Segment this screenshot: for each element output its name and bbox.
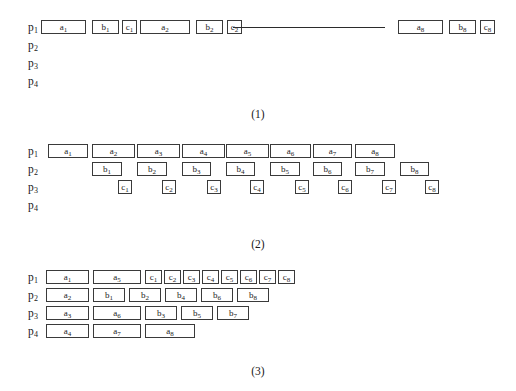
process-rows: p1p2p3p4a1b1c1a2b2c2a8b8c8	[0, 18, 516, 90]
process-rows: p1p2p3p4a1a2a3a4a5a6a7a8b1b2b3b4b5b6b7b8…	[0, 142, 516, 214]
task-box-a8: a8	[398, 20, 443, 34]
row-label-p3: p3	[28, 178, 38, 196]
task-box-a6: a6	[93, 306, 141, 320]
figure-caption: (2)	[0, 238, 516, 250]
task-box-a1: a1	[46, 270, 89, 284]
figure-3: p1p2p3p4a1a5c1c2c3c4c5c6c7c8a2b1b2b4b6b8…	[0, 268, 516, 340]
row-label-p2: p2	[28, 160, 38, 178]
task-box-c3: c3	[183, 270, 200, 284]
process-row: p4	[0, 196, 516, 214]
row-label-p2: p2	[28, 286, 38, 304]
task-box-a3: a3	[46, 306, 89, 320]
task-box-b1: b1	[92, 162, 122, 176]
task-box-b8: b8	[400, 162, 429, 176]
row-label-p1: p1	[28, 142, 38, 160]
row-label-p3: p3	[28, 54, 38, 72]
task-box-c5: c5	[295, 180, 309, 194]
row-label-p4: p4	[28, 72, 38, 90]
process-row: p4	[0, 72, 516, 90]
task-box-b7: b7	[355, 162, 385, 176]
task-box-b5: b5	[181, 306, 213, 320]
task-box-c8: c8	[278, 270, 295, 284]
task-box-a5: a5	[93, 270, 141, 284]
task-box-c5: c5	[221, 270, 238, 284]
row-label-p4: p4	[28, 322, 38, 340]
task-box-a7: a7	[93, 324, 141, 338]
task-box-c6: c6	[240, 270, 257, 284]
row-label-p1: p1	[28, 18, 38, 36]
process-row: p3	[0, 54, 516, 72]
task-box-a4: a4	[182, 144, 225, 158]
figure-caption: (1)	[0, 108, 516, 120]
task-box-c1: c1	[118, 180, 132, 194]
task-box-c1: c1	[145, 270, 162, 284]
row-label-p3: p3	[28, 304, 38, 322]
task-box-b2: b2	[196, 20, 223, 34]
task-box-c7: c7	[259, 270, 276, 284]
task-box-a3: a3	[137, 144, 180, 158]
task-box-c2: c2	[162, 180, 176, 194]
task-box-a2: a2	[46, 288, 89, 302]
figure-caption: (3)	[0, 365, 516, 377]
task-box-c8: c8	[480, 20, 495, 34]
task-box-a6: a6	[270, 144, 311, 158]
task-box-b6: b6	[313, 162, 342, 176]
task-box-c2: c2	[164, 270, 181, 284]
continuation-line	[233, 27, 385, 28]
task-box-a2: a2	[92, 144, 135, 158]
row-label-p2: p2	[28, 36, 38, 54]
task-box-a1: a1	[48, 144, 88, 158]
task-box-b3: b3	[145, 306, 177, 320]
task-box-c7: c7	[382, 180, 396, 194]
task-box-b1: b1	[93, 288, 125, 302]
task-box-b2: b2	[137, 162, 167, 176]
task-box-b5: b5	[270, 162, 300, 176]
figure-1: p1p2p3p4a1b1c1a2b2c2a8b8c8	[0, 18, 516, 90]
task-box-a2: a2	[140, 20, 190, 34]
task-box-b3: b3	[182, 162, 211, 176]
task-box-c6: c6	[338, 180, 352, 194]
task-box-b8: b8	[449, 20, 476, 34]
task-box-b4: b4	[165, 288, 197, 302]
task-box-a7: a7	[313, 144, 352, 158]
task-box-c4: c4	[250, 180, 264, 194]
process-row: p2	[0, 36, 516, 54]
task-box-c1: c1	[122, 20, 137, 34]
task-box-a5: a5	[226, 144, 269, 158]
task-box-a8: a8	[355, 144, 395, 158]
task-box-a4: a4	[46, 324, 89, 338]
process-row: p2	[0, 160, 516, 178]
figure-2: p1p2p3p4a1a2a3a4a5a6a7a8b1b2b3b4b5b6b7b8…	[0, 142, 516, 214]
task-box-b7: b7	[217, 306, 249, 320]
process-rows: p1p2p3p4a1a5c1c2c3c4c5c6c7c8a2b1b2b4b6b8…	[0, 268, 516, 340]
task-box-b6: b6	[201, 288, 233, 302]
task-box-c8: c8	[425, 180, 439, 194]
row-label-p4: p4	[28, 196, 38, 214]
task-box-b1: b1	[92, 20, 119, 34]
task-box-a8: a8	[145, 324, 195, 338]
task-box-b2: b2	[129, 288, 161, 302]
task-box-a1: a1	[41, 20, 86, 34]
row-label-p1: p1	[28, 268, 38, 286]
task-box-c4: c4	[202, 270, 219, 284]
task-box-c3: c3	[207, 180, 221, 194]
task-box-b4: b4	[226, 162, 255, 176]
task-box-b8: b8	[237, 288, 269, 302]
